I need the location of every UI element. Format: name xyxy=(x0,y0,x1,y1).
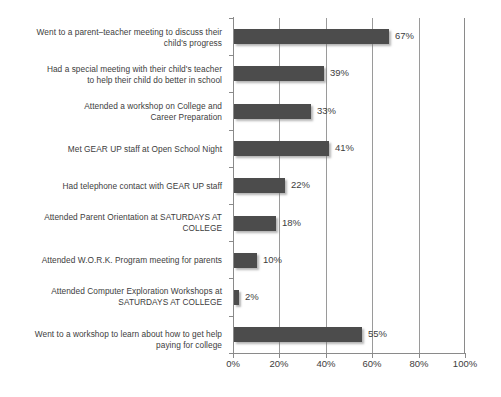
x-tick-label: 60% xyxy=(362,358,381,370)
y-tick xyxy=(229,18,233,19)
category-label: Met GEAR UP staff at Open School Night xyxy=(0,144,222,155)
bar[interactable] xyxy=(234,253,257,268)
plot-right-border xyxy=(464,18,465,353)
bar[interactable] xyxy=(234,66,324,81)
y-tick xyxy=(229,204,233,205)
gridline-80 xyxy=(419,18,420,353)
x-axis-line xyxy=(233,353,466,354)
bar-value-label: 55% xyxy=(368,328,387,339)
y-tick xyxy=(229,241,233,242)
category-label: Went to a workshop to learn about how to… xyxy=(0,329,222,351)
category-label: Attended Computer Exploration Workshops … xyxy=(0,286,222,308)
gridline-60 xyxy=(372,18,373,353)
y-tick xyxy=(229,316,233,317)
bar[interactable] xyxy=(234,104,311,119)
category-label: Had a special meeting with their child's… xyxy=(0,64,222,86)
category-label: Attended W.O.R.K. Program meeting for pa… xyxy=(0,255,222,266)
bar[interactable] xyxy=(234,327,362,342)
plot-area: 67% 39% 33% 41% 22% 18% 10% 2% 55% xyxy=(233,18,465,353)
y-tick xyxy=(229,92,233,93)
category-label: Went to a parent–teacher meeting to disc… xyxy=(0,27,222,49)
x-tick-label: 100% xyxy=(453,358,477,370)
x-axis-tick-labels: 0% 20% 40% 60% 80% 100% xyxy=(233,358,478,374)
bar-value-label: 67% xyxy=(395,30,414,41)
category-axis-labels: Went to a parent–teacher meeting to disc… xyxy=(0,18,228,353)
y-tick xyxy=(229,278,233,279)
y-tick xyxy=(229,130,233,131)
x-tick-label: 80% xyxy=(409,358,428,370)
bar-value-label: 10% xyxy=(263,254,282,265)
bar-chart: Went to a parent–teacher meeting to disc… xyxy=(0,0,501,397)
bar-value-label: 2% xyxy=(245,291,259,302)
bar[interactable] xyxy=(234,216,276,231)
category-label: Attended Parent Orientation at SATURDAYS… xyxy=(0,212,222,234)
bar-value-label: 33% xyxy=(317,105,336,116)
bar[interactable] xyxy=(234,178,285,193)
y-tick xyxy=(229,55,233,56)
x-tick-label: 40% xyxy=(316,358,335,370)
category-label: Attended a workshop on College andCareer… xyxy=(0,101,222,123)
bar-value-label: 18% xyxy=(282,217,301,228)
bar[interactable] xyxy=(234,290,239,305)
x-tick-label: 20% xyxy=(269,358,288,370)
category-label: Had telephone contact with GEAR UP staff xyxy=(0,181,222,192)
bar-value-label: 22% xyxy=(291,179,310,190)
bar-value-label: 41% xyxy=(335,142,354,153)
gridline-40 xyxy=(326,18,327,353)
x-tick-label: 0% xyxy=(226,358,240,370)
y-tick xyxy=(229,167,233,168)
bar-value-label: 39% xyxy=(330,67,349,78)
bar[interactable] xyxy=(234,141,329,156)
bar[interactable] xyxy=(234,29,389,44)
